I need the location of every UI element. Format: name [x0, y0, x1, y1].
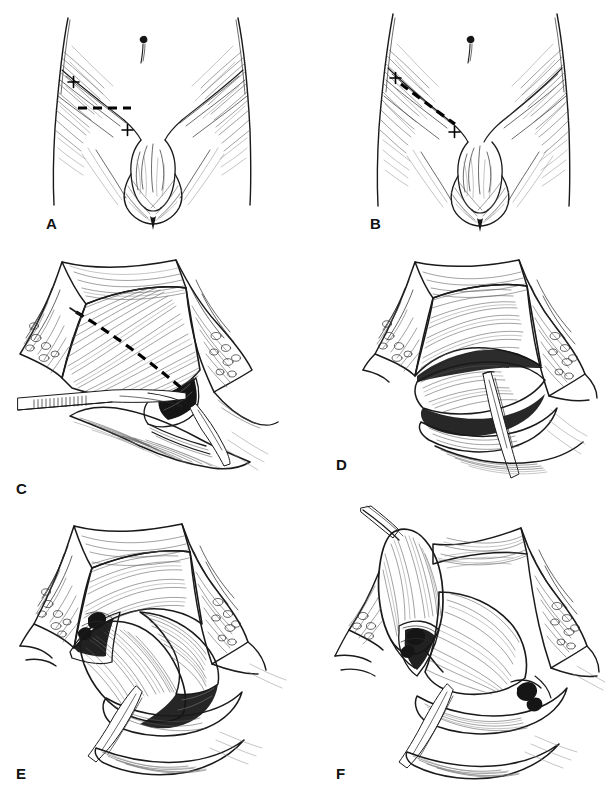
umbilicus-mark: [140, 36, 148, 63]
panel-b-label: B: [370, 216, 381, 231]
panel-b-illustration: [305, 0, 610, 250]
panel-f: F: [305, 500, 610, 790]
panel-e: E: [0, 500, 305, 790]
panel-a-illustration: [0, 0, 305, 250]
panel-c-illustration: [0, 250, 305, 500]
incision-line-dashed: [401, 84, 455, 124]
panel-b: B: [305, 0, 610, 250]
landmark-plus-lower: [449, 127, 460, 138]
panel-c: C: [0, 250, 305, 500]
panel-f-illustration: [305, 500, 610, 790]
clamp-instrument: [88, 686, 142, 762]
panel-e-illustration: [0, 500, 305, 790]
panel-d: D: [305, 250, 610, 500]
panel-e-label: E: [16, 766, 26, 781]
clamp-on-sac: [361, 506, 403, 540]
panel-d-label: D: [336, 457, 347, 472]
umbilicus-mark: [467, 36, 475, 63]
surgical-figure: A: [0, 0, 610, 790]
panel-f-label: F: [336, 766, 345, 781]
panel-a: A: [0, 0, 305, 250]
clamp-instrument-lower: [399, 684, 453, 768]
panel-a-label: A: [46, 216, 57, 231]
landmark-plus-upper: [390, 73, 401, 84]
panel-c-label: C: [16, 481, 27, 496]
panel-d-illustration: [305, 250, 610, 500]
landmark-plus-lower: [122, 125, 133, 136]
